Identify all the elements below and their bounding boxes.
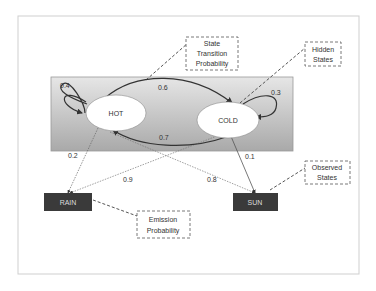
callout-observed-states: Observed States [305, 161, 350, 184]
svg-text:Emission: Emission [149, 216, 178, 223]
prob-cold-sun: 0.1 [245, 153, 255, 160]
svg-text:Probability: Probability [147, 227, 180, 235]
svg-text:State: State [204, 40, 220, 47]
callout-hidden-states: Hidden States [305, 42, 341, 66]
node-sun-label: SUN [248, 199, 263, 206]
prob-cold-hot: 0.7 [159, 134, 169, 141]
svg-text:Hidden: Hidden [312, 46, 334, 53]
prob-hot-sun: 0.8 [207, 176, 217, 183]
svg-text:States: States [317, 174, 337, 181]
svg-text:States: States [313, 56, 333, 63]
node-cold-label: COLD [218, 117, 237, 124]
prob-hot-cold: 0.6 [158, 84, 168, 91]
prob-hot-rain: 0.2 [68, 152, 78, 159]
hmm-diagram: HOT COLD RAIN SUN 0.4 0.6 0.7 0.3 0.2 0.… [0, 0, 376, 291]
diagram-canvas: HOT COLD RAIN SUN 0.4 0.6 0.7 0.3 0.2 0.… [0, 0, 376, 291]
node-hot-label: HOT [109, 110, 125, 117]
callout-emission-probability: Emission Probability [137, 211, 190, 238]
prob-cold-rain: 0.9 [123, 176, 133, 183]
svg-text:Observed: Observed [312, 164, 342, 171]
node-rain-label: RAIN [60, 199, 77, 206]
prob-hot-hot: 0.4 [60, 82, 70, 89]
svg-text:Transition: Transition [197, 50, 228, 57]
svg-text:Probability: Probability [196, 60, 229, 68]
prob-cold-cold: 0.3 [271, 89, 281, 96]
callout-state-transition: State Transition Probability [186, 37, 238, 70]
